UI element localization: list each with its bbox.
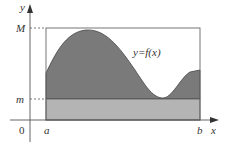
tick-label-b: b (197, 124, 203, 136)
curve-label: y=f(x) (132, 46, 161, 59)
curve-area (46, 30, 200, 99)
tick-label-M: M (15, 22, 26, 34)
area-diagram: y x 0 M m a b y=f(x) (0, 0, 229, 153)
x-axis-label: x (210, 124, 216, 136)
y-axis-arrow-icon (27, 4, 33, 13)
tick-label-m: m (16, 93, 24, 105)
lower-rectangle (46, 99, 200, 120)
origin-label: 0 (19, 124, 25, 136)
y-axis-label: y (19, 1, 25, 13)
x-axis-arrow-icon (210, 117, 219, 123)
tick-label-a: a (44, 124, 50, 136)
